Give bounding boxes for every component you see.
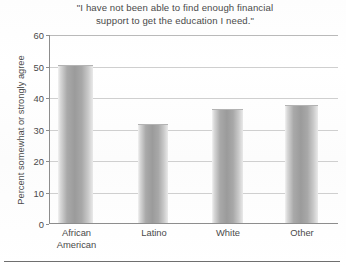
x-category-label-white: White bbox=[188, 227, 268, 239]
x-category-label-line-2: American bbox=[34, 239, 119, 251]
bar-other bbox=[285, 105, 318, 223]
x-category-label-line-1: Latino bbox=[141, 227, 167, 238]
x-category-label-other: Other bbox=[262, 227, 342, 239]
x-category-label-african-american: African American bbox=[34, 227, 119, 250]
chart-title-line-2: support to get the education I need." bbox=[50, 15, 300, 28]
footer-divider bbox=[4, 261, 340, 262]
gridline-60 bbox=[49, 35, 338, 36]
plot-area: Percent somewhat or strongly agree 60 50… bbox=[49, 35, 338, 224]
x-category-label-line-1: Other bbox=[290, 227, 313, 238]
y-tick-label-40: 40 bbox=[34, 93, 44, 104]
y-axis-line bbox=[49, 35, 50, 224]
chart-title-line-1: "I have not been able to find enough fin… bbox=[50, 2, 300, 15]
y-tick-label-10: 10 bbox=[34, 187, 44, 198]
x-axis-line bbox=[49, 223, 338, 224]
bar-latino bbox=[138, 124, 168, 223]
y-tick-label-60: 60 bbox=[34, 30, 44, 41]
x-category-label-line-1: White bbox=[216, 227, 240, 238]
x-category-label-latino: Latino bbox=[114, 227, 194, 239]
bar-african-american bbox=[58, 65, 93, 224]
y-tick-label-30: 30 bbox=[34, 124, 44, 135]
y-axis-title: Percent somewhat or strongly agree bbox=[16, 55, 26, 204]
chart-title: "I have not been able to find enough fin… bbox=[50, 2, 300, 27]
x-category-label-line-1: African bbox=[62, 227, 91, 238]
y-tick-label-50: 50 bbox=[34, 61, 44, 72]
chart-figure: "I have not been able to find enough fin… bbox=[0, 0, 346, 267]
bar-white bbox=[212, 109, 243, 223]
y-tick-label-20: 20 bbox=[34, 156, 44, 167]
tick-mark-0 bbox=[46, 224, 49, 225]
